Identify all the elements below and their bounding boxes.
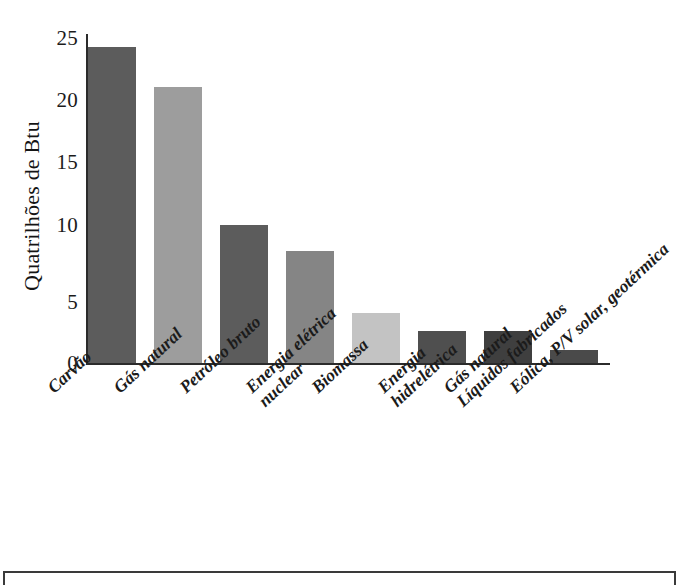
figure-bottom-frame <box>3 571 676 585</box>
x-label-carvao: Carvão <box>44 347 95 397</box>
x-label-energia-hidreletrica: Energia hidrelétrica <box>374 326 461 411</box>
x-label-carvao-line1: Carvão <box>43 346 95 396</box>
x-axis-tick-labels: Carvão Gás natural Petróleo bruto Energi… <box>0 0 679 585</box>
x-label-gas-natural-line1: Gás natural <box>109 324 186 397</box>
figure-bar-chart: 25 20 15 10 5 0 Quatrilhões de Btu Carvã… <box>0 0 679 585</box>
x-label-gas-natural: Gás natural <box>110 324 186 397</box>
